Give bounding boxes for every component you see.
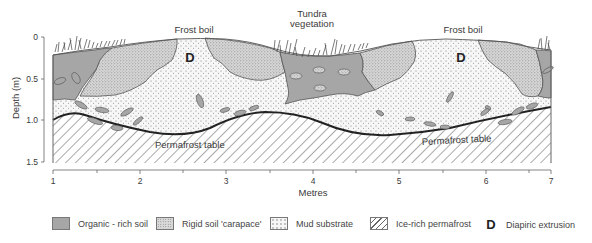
x-tick-label: 2 (138, 176, 143, 186)
legend-label: Mud substrate (296, 219, 353, 229)
legend-item-mud: Mud substrate (270, 217, 353, 230)
x-tick-label: 3 (224, 176, 229, 186)
diapir-marker-right: D (456, 50, 465, 65)
frost-boil-cross-section: 0 0.5 1.0 1.5 Depth (m) 1 2 3 4 5 6 7 (0, 0, 592, 213)
y-tick-label: 1.5 (26, 157, 38, 167)
y-tick-label: 0 (33, 32, 38, 42)
tundra-vegetation-label-2: vegetation (290, 18, 334, 29)
legend-label: Diapiric extrusion (506, 220, 575, 230)
legend-item-carapace: Rigid soil 'carapace' (156, 217, 261, 230)
y-axis: 0 0.5 1.0 1.5 Depth (m) (10, 32, 44, 167)
frost-boil-label-left: Frost boil (174, 24, 213, 35)
legend: Organic - rich soil Rigid soil 'carapace… (0, 213, 592, 237)
x-tick-label: 7 (549, 176, 554, 186)
frost-boil-label-right: Frost boil (443, 24, 482, 35)
legend-label: Ice-rich permafrost (396, 219, 471, 229)
legend-label: Organic - rich soil (78, 219, 148, 229)
x-tick-label: 6 (484, 176, 489, 186)
legend-item-organic: Organic - rich soil (52, 217, 148, 230)
x-tick-label: 5 (397, 176, 402, 186)
permafrost-table-label-left: Permafrost table (155, 139, 225, 150)
legend-item-permafrost: Ice-rich permafrost (370, 217, 471, 230)
x-axis: 1 2 3 4 5 6 7 Metres (51, 170, 554, 198)
y-tick-label: 0.5 (26, 74, 38, 84)
legend-item-diapir: D Diapiric extrusion (486, 217, 575, 232)
x-tick-label: 4 (311, 176, 316, 186)
diapir-marker-left: D (185, 50, 194, 65)
mud-substrate-swatch-icon (270, 217, 288, 230)
x-axis-label: Metres (298, 187, 327, 198)
ice-permafrost-swatch-icon (370, 217, 388, 230)
carapace-swatch-icon (156, 217, 174, 230)
organic-soil-swatch-icon (52, 217, 70, 230)
x-tick-label: 1 (51, 176, 56, 186)
y-axis-label: Depth (m) (10, 77, 21, 119)
diapir-d-icon: D (486, 217, 496, 232)
y-tick-label: 1.0 (26, 115, 38, 125)
legend-label: Rigid soil 'carapace' (182, 219, 261, 229)
